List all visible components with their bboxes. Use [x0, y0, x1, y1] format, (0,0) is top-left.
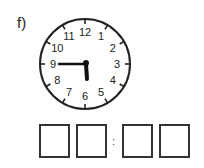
clock-number: 7 — [66, 86, 72, 98]
clock-number: 10 — [51, 42, 63, 54]
clock-number: 9 — [50, 58, 56, 70]
clock-number: 4 — [110, 74, 116, 86]
clock-number: 12 — [79, 26, 91, 38]
clock-number: 8 — [54, 74, 60, 86]
clock-number: 6 — [82, 90, 88, 102]
answer-box-hour-tens[interactable] — [39, 124, 70, 158]
answer-box-hour-ones[interactable] — [76, 124, 107, 158]
clock-number: 2 — [110, 42, 116, 54]
answer-box-minute-ones[interactable] — [159, 124, 190, 158]
clock-number: 11 — [63, 30, 74, 42]
answer-box-minute-tens[interactable] — [122, 124, 153, 158]
clock-number: 5 — [98, 86, 104, 98]
clock-number: 3 — [114, 58, 120, 70]
clock-number: 1 — [98, 30, 104, 42]
clock-center — [83, 60, 89, 66]
hour-hand — [86, 64, 87, 79]
time-colon: : — [112, 135, 115, 147]
